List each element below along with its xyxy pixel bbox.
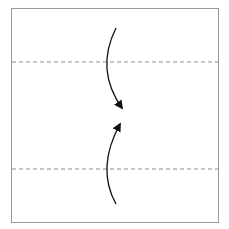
origami-fold-diagram [0, 0, 229, 229]
paper-square [12, 9, 219, 223]
